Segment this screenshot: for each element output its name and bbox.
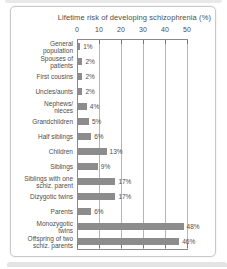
bar-track: 6% xyxy=(76,129,215,144)
chart-title: Lifetime risk of developing schizophreni… xyxy=(11,13,211,22)
chart-card: Lifetime risk of developing schizophreni… xyxy=(10,6,216,257)
value-label: 2% xyxy=(85,58,94,65)
category-label: Parents xyxy=(11,208,76,215)
bar xyxy=(78,43,80,50)
bar-row: Spouses of patients2% xyxy=(11,54,215,69)
bar-track: 48% xyxy=(76,219,215,234)
page-edge-top xyxy=(5,0,222,3)
bar-row: Grandchildren5% xyxy=(11,114,215,129)
bar xyxy=(78,133,91,140)
bar-row: General population1% xyxy=(11,39,215,54)
x-tick-label: 50 xyxy=(178,26,196,33)
category-label: Uncles/aunts xyxy=(11,88,76,95)
x-axis-line-bottom xyxy=(77,249,188,250)
value-label: 13% xyxy=(110,148,123,155)
bar-row: Parents6% xyxy=(11,204,215,219)
category-label: Half siblings xyxy=(11,133,76,140)
bar-row: Siblings9% xyxy=(11,159,215,174)
value-label: 48% xyxy=(187,223,200,230)
x-tick-label: 0 xyxy=(68,26,86,33)
bar-track: 5% xyxy=(76,114,215,129)
category-label: Siblings with one schiz. parent xyxy=(11,175,76,189)
bar-track: 9% xyxy=(76,159,215,174)
bar xyxy=(78,163,98,170)
bar-track: 2% xyxy=(76,54,215,69)
category-label: Children xyxy=(11,148,76,155)
value-label: 4% xyxy=(90,103,99,110)
bar xyxy=(78,88,82,95)
bar-track: 4% xyxy=(76,99,215,114)
category-label: Monozygotic twins xyxy=(11,220,76,234)
bar-track: 1% xyxy=(76,39,215,54)
bar-row: First cousins2% xyxy=(11,69,215,84)
bar-track: 6% xyxy=(76,204,215,219)
category-label: Nephews/ nieces xyxy=(11,100,76,114)
bar xyxy=(78,193,115,200)
value-label: 17% xyxy=(118,193,131,200)
value-label: 6% xyxy=(94,208,103,215)
page-edge-bottom xyxy=(7,262,227,267)
plot-area: Lifetime risk of developing schizophreni… xyxy=(11,7,215,256)
bar xyxy=(78,178,115,185)
bar-track: 17% xyxy=(76,174,215,189)
bar-row: Dizygotic twins17% xyxy=(11,189,215,204)
value-label: 2% xyxy=(85,73,94,80)
category-label: Siblings xyxy=(11,163,76,170)
bar-track: 17% xyxy=(76,189,215,204)
category-label: Grandchildren xyxy=(11,118,76,125)
value-label: 5% xyxy=(92,118,101,125)
bar-rows: General population1%Spouses of patients2… xyxy=(11,39,215,249)
bar-track: 2% xyxy=(76,84,215,99)
bar-row: Siblings with one schiz. parent17% xyxy=(11,174,215,189)
category-label: First cousins xyxy=(11,73,76,80)
bar xyxy=(78,223,184,230)
bar-row: Uncles/aunts2% xyxy=(11,84,215,99)
bar-track: 2% xyxy=(76,69,215,84)
bar xyxy=(78,208,91,215)
bar-row: Half siblings6% xyxy=(11,129,215,144)
bar xyxy=(78,73,82,80)
bar xyxy=(78,118,89,125)
bar-track: 46% xyxy=(76,234,215,249)
x-tick-label: 30 xyxy=(134,26,152,33)
x-tick-label: 10 xyxy=(90,26,108,33)
value-label: 6% xyxy=(94,133,103,140)
bar xyxy=(78,58,82,65)
value-label: 9% xyxy=(101,163,110,170)
bar-track: 13% xyxy=(76,144,215,159)
bar-row: Monozygotic twins48% xyxy=(11,219,215,234)
x-tick-label: 40 xyxy=(156,26,174,33)
category-label: General population xyxy=(11,40,76,54)
bar xyxy=(78,103,87,110)
bar xyxy=(78,148,107,155)
value-label: 1% xyxy=(83,43,92,50)
value-label: 46% xyxy=(182,238,195,245)
bar-row: Offspring of two schiz. parents46% xyxy=(11,234,215,249)
bar-row: Children13% xyxy=(11,144,215,159)
category-label: Spouses of patients xyxy=(11,55,76,69)
category-label: Offspring of two schiz. parents xyxy=(11,235,76,249)
bar xyxy=(78,238,179,245)
value-label: 2% xyxy=(85,88,94,95)
category-label: Dizygotic twins xyxy=(11,193,76,200)
bar-row: Nephews/ nieces4% xyxy=(11,99,215,114)
page: Lifetime risk of developing schizophreni… xyxy=(0,0,227,269)
x-tick-label: 20 xyxy=(112,26,130,33)
value-label: 17% xyxy=(118,178,131,185)
